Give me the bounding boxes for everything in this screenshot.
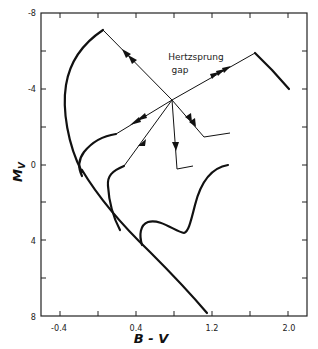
track-loop-1: [79, 134, 116, 176]
y-tick-label: 0: [31, 160, 36, 170]
annotation-hertzsprung: Hertzsprung: [168, 52, 223, 62]
track-low-mass: [140, 165, 228, 245]
x-axis-ticks-top: [60, 13, 288, 18]
track-loop-2: [108, 166, 124, 230]
track-line-down: [172, 100, 177, 169]
y-tick-label: -4: [28, 84, 36, 94]
y-tick-label: -8: [28, 8, 36, 18]
arrow-icon: [136, 113, 147, 121]
track-red-giant-branch: [255, 53, 289, 89]
arrow-icon: [185, 113, 192, 122]
y-axis-ticks-right: [302, 51, 307, 278]
y-axis-ticks-left: [41, 51, 46, 278]
track-branch-right: [204, 133, 230, 137]
x-tick-label: 2.0: [283, 323, 296, 333]
track-line-to-hub-top: [103, 30, 172, 100]
y-tick-label: 4: [31, 236, 36, 246]
x-axis-title: B - V: [134, 331, 169, 346]
svg-text:MV: MV: [10, 161, 27, 182]
hr-diagram: -0.4 0.4 1.2 2.0 -8 -4 0 4 8 B - V MV He…: [0, 0, 318, 349]
track-line-to-left-2: [124, 100, 172, 166]
x-axis-ticks-bottom: [60, 311, 288, 316]
x-tick-label: -0.4: [51, 323, 67, 333]
x-tick-label: 1.2: [206, 323, 219, 333]
arrow-icon: [172, 142, 179, 151]
main-sequence: [82, 170, 207, 313]
y-axis-title: MV: [10, 161, 27, 182]
track-short-branch: [177, 166, 193, 169]
arrow-icon: [222, 66, 231, 73]
annotation-gap: gap: [172, 65, 189, 75]
y-tick-label: 8: [31, 312, 36, 322]
